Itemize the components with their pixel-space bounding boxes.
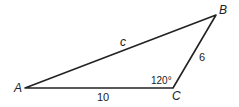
angle-label-c: 120° (151, 75, 172, 86)
vertex-label-c: C (172, 89, 181, 103)
triangle-diagram: A B C c 10 6 120° (0, 0, 239, 107)
side-label-ab: c (120, 35, 126, 49)
triangle-abc (25, 15, 216, 88)
vertex-label-b: B (219, 3, 227, 17)
side-label-bc: 6 (199, 51, 205, 63)
vertex-label-a: A (13, 81, 22, 95)
side-label-ac: 10 (97, 91, 109, 103)
